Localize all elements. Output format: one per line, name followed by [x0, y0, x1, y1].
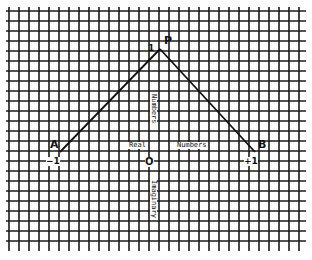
- axis-label-numbers-horizontal: Numbers: [176, 142, 208, 149]
- axis-label-imaginary: Imaginary: [150, 179, 157, 219]
- tick-label-minus-one: −1: [46, 157, 60, 166]
- graph-paper: [0, 0, 312, 260]
- tick-label-imag-one: 1: [148, 44, 154, 53]
- origin-label: O: [145, 157, 154, 167]
- point-label-a: A: [50, 139, 59, 150]
- point-label-p: P: [164, 35, 172, 46]
- point-label-b: B: [258, 139, 266, 150]
- axis-label-numbers-vertical: Numbers: [150, 93, 157, 125]
- axis-label-real: Real: [128, 142, 147, 149]
- tick-label-plus-one: +1: [244, 157, 258, 166]
